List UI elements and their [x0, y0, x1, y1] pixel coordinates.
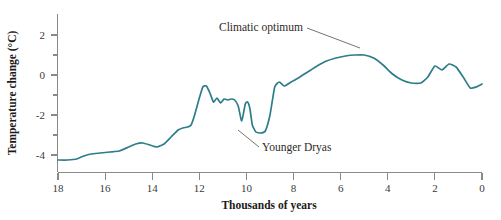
climatic-optimum-leader-line: [307, 28, 360, 48]
climatic-optimum-label: Climatic optimum: [219, 21, 303, 34]
younger-dryas-label: Younger Dryas: [262, 141, 332, 154]
climate-temperature-chart: 20-2-4 181614121086420 Climatic optimumY…: [0, 0, 501, 220]
x-axis-tick-labels: 181614121086420: [53, 182, 486, 194]
x-tick-label: 0: [479, 182, 485, 194]
y-tick-label: -4: [36, 149, 46, 161]
x-tick-label: 14: [147, 182, 159, 194]
x-tick-label: 2: [432, 182, 438, 194]
x-tick-label: 18: [53, 182, 65, 194]
y-tick-label: -2: [36, 109, 45, 121]
x-tick-label: 4: [385, 182, 391, 194]
x-axis-group: 181614121086420: [53, 173, 486, 195]
x-tick-label: 6: [338, 182, 344, 194]
y-axis-minor-ticks: [53, 55, 58, 135]
y-tick-label: 2: [40, 29, 46, 41]
y-axis-title: Temperature change (°C): [6, 30, 19, 155]
y-axis-group: 20-2-4: [36, 14, 58, 172]
y-tick-label: 0: [40, 69, 46, 81]
y-axis-tick-labels: 20-2-4: [36, 29, 46, 161]
x-tick-label: 10: [241, 182, 253, 194]
x-tick-label: 16: [100, 182, 112, 194]
x-tick-label: 12: [194, 182, 205, 194]
x-axis-major-ticks: [58, 173, 482, 180]
chart-annotations: Climatic optimumYounger Dryas: [219, 21, 360, 154]
chart-canvas: 20-2-4 181614121086420 Climatic optimumY…: [0, 0, 501, 220]
x-axis-title: Thousands of years: [221, 199, 317, 212]
x-tick-label: 8: [291, 182, 297, 194]
